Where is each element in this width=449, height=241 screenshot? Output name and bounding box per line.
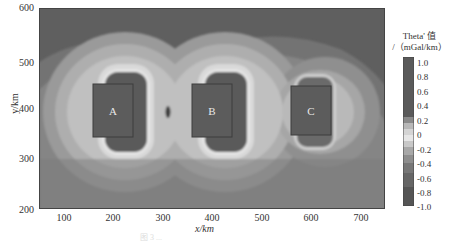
y-tick-500: 500: [0, 58, 34, 68]
source-label-b: B: [208, 105, 215, 117]
y-axis-label: y/km: [9, 84, 20, 124]
colorbar-tick: -1.0: [417, 203, 431, 212]
colorbar-tick: 0: [417, 131, 422, 140]
x-tick-100: 100: [49, 212, 79, 223]
x-tick-400: 400: [197, 212, 227, 223]
colorbar-tick: 0.4: [417, 102, 428, 111]
colorbar-title-line2: /（mGal/km）: [390, 42, 449, 53]
colorbar-tick: -0.2: [417, 146, 431, 155]
colorbar-tick: 0.6: [417, 88, 428, 97]
x-tick-300: 300: [148, 212, 178, 223]
x-tick-700: 700: [346, 212, 376, 223]
colorbar-tick: -0.6: [417, 175, 431, 184]
colorbar-title: Theta' 值 /（mGal/km）: [390, 31, 449, 53]
colorbar-tick: -0.4: [417, 160, 431, 169]
figure-caption: 图 3 ...: [140, 231, 162, 241]
heatmap-image: A B C: [40, 9, 385, 209]
y-tick-200: 200: [0, 205, 34, 215]
colorbar-tick: -0.8: [417, 189, 431, 198]
source-label-c: C: [307, 105, 314, 117]
x-tick-200: 200: [98, 212, 128, 223]
x-tick-500: 500: [247, 212, 277, 223]
colorbar-tick: 0.2: [417, 117, 428, 126]
source-label-a: A: [109, 105, 117, 117]
colorbar-title-line1: Theta' 值: [390, 31, 449, 42]
x-axis-label: x/km: [195, 223, 214, 234]
colorbar: [403, 57, 414, 206]
heatmap-plot-area: A B C: [39, 8, 385, 209]
colorbar-tick: 0.8: [417, 73, 428, 82]
y-tick-600: 600: [0, 3, 34, 13]
x-tick-600: 600: [296, 212, 326, 223]
y-tick-300: 300: [0, 154, 34, 164]
colorbar-tick: 1.0: [417, 59, 428, 68]
